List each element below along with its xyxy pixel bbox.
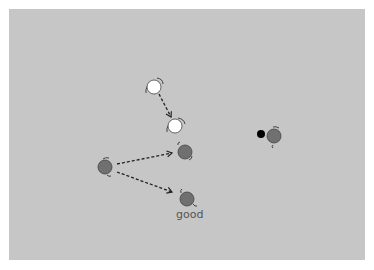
diagram-scene: good bbox=[0, 0, 374, 270]
diagram-canvas: good bbox=[0, 0, 374, 270]
arrow-gray-to-upper bbox=[117, 153, 172, 164]
robot-gray-source bbox=[98, 158, 112, 177]
robot-gray-good bbox=[180, 189, 197, 206]
arrow-white-move bbox=[159, 94, 171, 117]
black-dot bbox=[257, 130, 265, 138]
robot-white-end bbox=[167, 118, 185, 133]
arrow-gray-to-good bbox=[117, 172, 172, 192]
robot-white-start bbox=[146, 78, 163, 94]
robot-gray-right bbox=[267, 127, 281, 148]
good-label: good bbox=[176, 208, 203, 221]
robot-gray-upper bbox=[178, 142, 192, 160]
